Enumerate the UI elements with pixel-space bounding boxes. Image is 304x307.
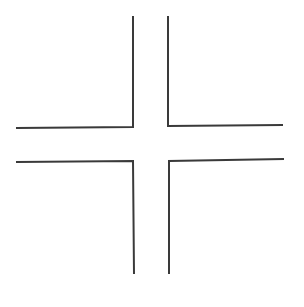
corner-bottom-right [169,159,284,274]
corner-bottom-left [16,161,134,274]
intersection-diagram [0,0,304,307]
corner-top-right [168,16,283,126]
corner-top-left [16,16,133,128]
